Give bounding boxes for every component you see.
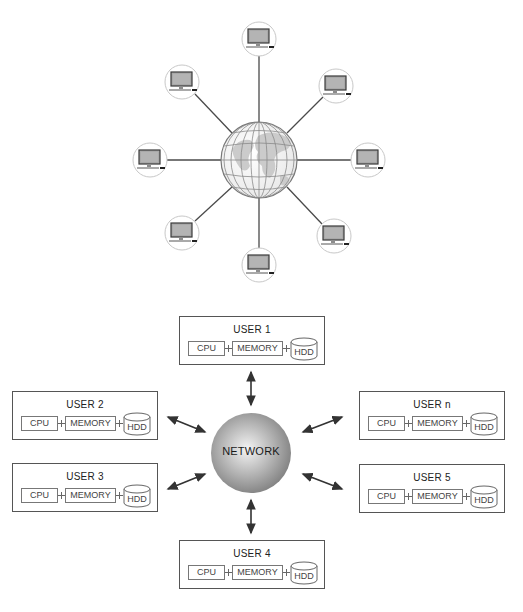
cpu-box: CPU: [368, 489, 405, 504]
connector: [405, 496, 412, 497]
user-title: USER 5: [360, 472, 504, 483]
cpu-box: CPU: [188, 565, 225, 580]
connector: [116, 423, 123, 424]
connector: [463, 496, 470, 497]
globe-network-diagram: [0, 0, 523, 612]
hdd-label: HDD: [123, 494, 151, 504]
globe-icon: [221, 122, 297, 198]
monitor-icon: [242, 22, 276, 56]
network-label: NETWORK: [211, 445, 291, 457]
monitor-icon: [133, 143, 167, 177]
monitor-icon: [317, 219, 351, 253]
user-box-1: USER 1 CPU MEMORY HDD: [179, 316, 325, 365]
cpu-box: CPU: [21, 416, 58, 431]
connector: [463, 423, 470, 424]
hdd-cylinder-icon: HDD: [470, 412, 498, 436]
user-title: USER 4: [180, 548, 324, 559]
hdd-label: HDD: [470, 422, 498, 432]
user-title: USER 3: [13, 471, 157, 482]
memory-box: MEMORY: [65, 488, 116, 503]
hdd-label: HDD: [123, 422, 151, 432]
user-box-3: USER 3 CPU MEMORY HDD: [12, 463, 158, 512]
user-box-4: USER 4 CPU MEMORY HDD: [179, 540, 325, 589]
memory-box: MEMORY: [232, 565, 283, 580]
memory-box: MEMORY: [412, 416, 463, 431]
user-box-2: USER 2 CPU MEMORY HDD: [12, 391, 158, 440]
hdd-cylinder-icon: HDD: [123, 484, 151, 508]
memory-box: MEMORY: [232, 341, 283, 356]
monitor-icon: [319, 69, 353, 103]
connector: [283, 348, 290, 349]
user-box-n: USER n CPU MEMORY HDD: [359, 391, 505, 440]
user-title: USER 1: [180, 324, 324, 335]
cpu-box: CPU: [21, 488, 58, 503]
connector: [58, 495, 65, 496]
user-title: USER 2: [13, 399, 157, 410]
user-box-5: USER 5 CPU MEMORY HDD: [359, 464, 505, 513]
hdd-cylinder-icon: HDD: [470, 485, 498, 509]
hdd-label: HDD: [470, 495, 498, 505]
hdd-cylinder-icon: HDD: [290, 337, 318, 361]
connector: [225, 348, 232, 349]
cpu-box: CPU: [368, 416, 405, 431]
hdd-cylinder-icon: HDD: [123, 412, 151, 436]
monitor-icon: [242, 248, 276, 282]
monitor-icon: [351, 143, 385, 177]
monitor-icon: [165, 65, 199, 99]
hdd-label: HDD: [290, 571, 318, 581]
connector: [225, 572, 232, 573]
memory-box: MEMORY: [412, 489, 463, 504]
connector: [283, 572, 290, 573]
hdd-label: HDD: [290, 347, 318, 357]
user-title: USER n: [360, 399, 504, 410]
connector: [58, 423, 65, 424]
hdd-cylinder-icon: HDD: [290, 561, 318, 585]
cpu-box: CPU: [188, 341, 225, 356]
connector: [405, 423, 412, 424]
memory-box: MEMORY: [65, 416, 116, 431]
connector: [116, 495, 123, 496]
monitor-icon: [165, 216, 199, 250]
